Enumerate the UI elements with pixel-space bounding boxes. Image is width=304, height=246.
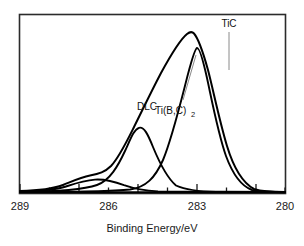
label-ti-b-c-2: Ti(B,C) 2	[155, 105, 195, 119]
label-dlc: DLC	[137, 101, 157, 112]
x-tick-label-286: 286	[99, 200, 117, 212]
x-tick-label-289: 289	[11, 200, 29, 212]
label-tic: TiC	[221, 18, 236, 29]
curve-ti-b-c-2	[20, 48, 285, 192]
x-tick-label-283: 283	[188, 200, 206, 212]
leader-line-ti-b-c-2	[183, 55, 196, 100]
label-ti-b-c-2-subscript: 2	[191, 110, 195, 119]
xps-spectrum-figure: TiC DLC Ti(B,C) 2 289 286 283 280 Bindin…	[0, 0, 304, 246]
label-ti-b-c-2-main: Ti(B,C)	[155, 105, 186, 116]
curve-envelope	[20, 32, 285, 192]
chart-canvas: TiC DLC Ti(B,C) 2 289 286 283 280 Bindin…	[0, 0, 304, 246]
x-axis-title: Binding Energy/eV	[106, 222, 198, 234]
x-tick-label-280: 280	[276, 200, 294, 212]
